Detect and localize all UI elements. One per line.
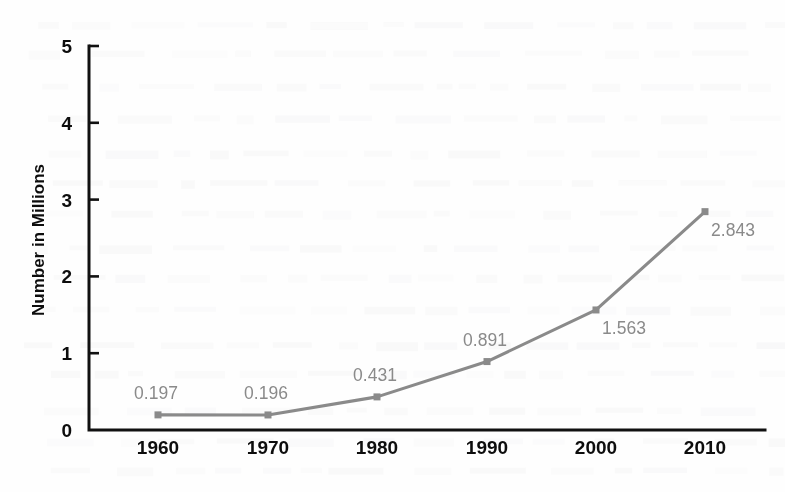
y-tick-label-4: 4 — [61, 113, 72, 134]
marker-1980 — [374, 393, 381, 400]
point-label-1960: 0.197 — [134, 383, 178, 403]
line-chart: Number in Millions 012345 19601970198019… — [0, 0, 785, 492]
point-label-1990: 0.891 — [463, 330, 507, 350]
y-tick-label-3: 3 — [61, 190, 72, 211]
x-tick-label-2010: 2010 — [684, 437, 726, 458]
x-axis-tick-labels: 196019701980199020002010 — [137, 437, 726, 458]
marker-2010 — [702, 208, 709, 215]
y-axis-tick-labels: 012345 — [61, 36, 72, 441]
x-tick-label-1980: 1980 — [356, 437, 398, 458]
data-point-markers — [155, 208, 709, 418]
point-label-1970: 0.196 — [244, 383, 288, 403]
marker-1960 — [155, 411, 162, 418]
data-series-line — [158, 212, 705, 415]
y-tick-label-1: 1 — [61, 343, 72, 364]
y-tick-label-0: 0 — [61, 420, 72, 441]
x-tick-label-1960: 1960 — [137, 437, 179, 458]
x-tick-label-1990: 1990 — [466, 437, 508, 458]
x-tick-label-2000: 2000 — [575, 437, 617, 458]
chart-axes — [89, 46, 765, 430]
y-axis-title: Number in Millions — [29, 164, 48, 316]
y-tick-label-2: 2 — [61, 266, 72, 287]
point-label-1980: 0.431 — [353, 365, 397, 385]
point-label-2000: 1.563 — [602, 318, 646, 338]
marker-1990 — [484, 358, 491, 365]
marker-2000 — [593, 306, 600, 313]
x-tick-label-1970: 1970 — [247, 437, 289, 458]
point-label-2010: 2.843 — [711, 220, 755, 240]
chart-container: Number in Millions 012345 19601970198019… — [0, 0, 785, 492]
marker-1970 — [265, 411, 272, 418]
y-tick-label-5: 5 — [61, 36, 72, 57]
